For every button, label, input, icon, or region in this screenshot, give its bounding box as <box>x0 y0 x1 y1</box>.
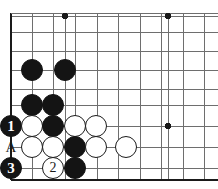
move-number-label: 1 <box>7 119 15 134</box>
stone-white <box>21 115 43 137</box>
stone-black <box>64 136 86 158</box>
stone-white <box>85 115 107 137</box>
stone-white <box>85 136 107 158</box>
stone-white <box>42 136 64 158</box>
stone-black <box>54 59 76 81</box>
stone-black <box>21 94 43 116</box>
stone-white <box>21 136 43 158</box>
go-board-diagram: 132 A <box>0 0 218 189</box>
stone-numbered-white: 2 <box>42 157 64 179</box>
stone-numbered-black: 1 <box>0 115 22 137</box>
move-number-label: 2 <box>50 161 57 175</box>
stone-black <box>42 94 64 116</box>
star-point <box>62 13 68 19</box>
stone-white <box>115 136 137 158</box>
stone-black <box>21 59 43 81</box>
stone-numbered-black: 3 <box>0 157 22 179</box>
stone-black <box>42 115 64 137</box>
star-point <box>165 13 171 19</box>
star-point <box>165 123 171 129</box>
star-points <box>62 13 171 129</box>
stone-white <box>64 115 86 137</box>
board-point-label-a: A <box>3 140 19 155</box>
stone-black <box>64 157 86 179</box>
move-number-label: 3 <box>7 161 15 176</box>
board-edge-lines <box>11 13 218 180</box>
